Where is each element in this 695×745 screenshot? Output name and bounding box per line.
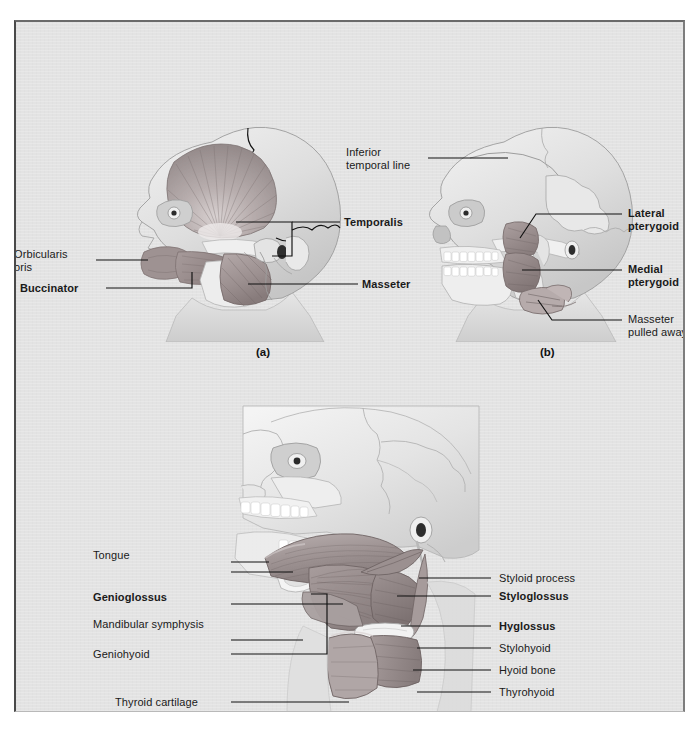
label-orbicularis-oris: Orbicularis oris [14,248,100,273]
label-buccinator: Buccinator [20,282,100,295]
panel-a-caption: (a) [256,346,270,358]
label-medial-pterygoid: Medial pterygoid [628,263,679,288]
label-styloid-process: Styloid process [499,572,575,585]
anatomy-figure-plate: Temporalis Masseter Orbicularis oris Buc… [14,20,685,712]
label-masseter-pulled-away: Masseter pulled away [628,313,685,338]
label-styloglossus: Styloglossus [499,590,569,603]
panel-c: Tongue Genioglossus Mandibular symphysis… [231,382,491,712]
label-hyglossus: Hyglossus [499,620,556,633]
label-thyrohyoid: Thyrohyoid [499,686,554,699]
label-inferior-temporal-line: Inferior temporal line [346,146,410,171]
label-mandibular-symphysis: Mandibular symphysis [93,618,213,631]
label-thyroid-cartilage: Thyroid cartilage [115,696,211,709]
label-hyoid-bone: Hyoid bone [499,664,556,677]
label-stylohyoid: Stylohyoid [499,642,551,655]
panel-b-caption: (b) [540,346,555,358]
label-geniohyoid: Geniohyoid [93,648,185,661]
label-temporalis: Temporalis [344,216,403,229]
panel-b: Inferior temporal line Lateral pterygoid… [396,102,676,342]
panel-a: Temporalis Masseter Orbicularis oris Buc… [96,102,386,342]
panel-a-illustration [96,102,386,342]
label-tongue: Tongue [93,549,179,562]
label-genioglossus: Genioglossus [93,591,187,604]
label-lateral-pterygoid: Lateral pterygoid [628,207,679,232]
panel-c-illustration [231,382,491,712]
